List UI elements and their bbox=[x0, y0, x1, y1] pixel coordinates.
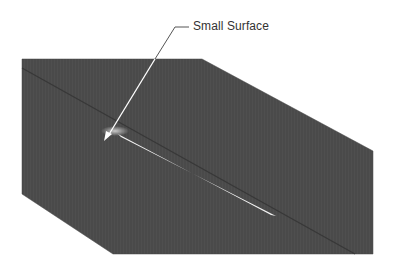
callout-label-small-surface: Small Surface bbox=[193, 19, 269, 33]
dark-surface-body bbox=[22, 59, 373, 254]
cad-figure: Small Surface bbox=[0, 0, 397, 266]
small-surface-highlight bbox=[101, 126, 129, 136]
callout-leader-diagonal bbox=[155, 27, 175, 59]
surface-render bbox=[0, 0, 397, 266]
